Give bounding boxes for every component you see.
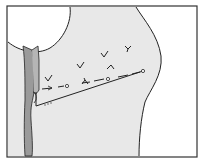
anatomical-diagram — [0, 0, 204, 163]
illustration-frame — [0, 0, 204, 163]
knot-marker — [141, 69, 144, 72]
knot-marker — [106, 77, 109, 80]
knot-marker — [65, 84, 68, 87]
vertical-band — [23, 46, 34, 156]
